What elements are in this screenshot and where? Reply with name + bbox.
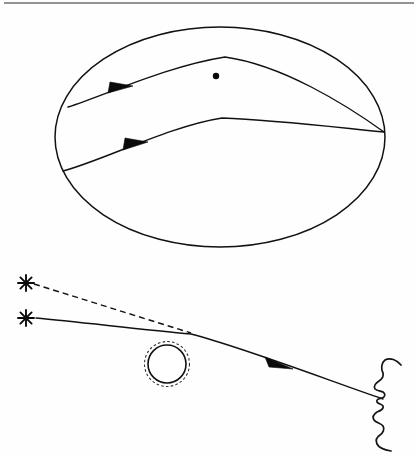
figure-root bbox=[0, 0, 418, 456]
upper-geodesic-arrowhead bbox=[108, 82, 133, 93]
upper-geodesic-ray bbox=[68, 57, 384, 132]
lens-mass-circle bbox=[148, 345, 186, 383]
central-mass-dot bbox=[213, 73, 219, 79]
lower-geodesic-ray bbox=[63, 118, 384, 171]
spacetime-shell-ellipse bbox=[55, 27, 385, 247]
star-icon-source bbox=[18, 310, 34, 326]
actual-light-path-solid bbox=[36, 318, 383, 399]
light-path-arrowhead bbox=[265, 357, 293, 369]
lensing-figure-svg bbox=[0, 0, 418, 456]
observer-face-profile bbox=[373, 359, 401, 451]
star-icon-apparent bbox=[18, 275, 34, 291]
lower-panel-group bbox=[18, 275, 401, 451]
lower-geodesic-arrowhead bbox=[123, 138, 148, 150]
upper-panel-group bbox=[55, 27, 385, 247]
